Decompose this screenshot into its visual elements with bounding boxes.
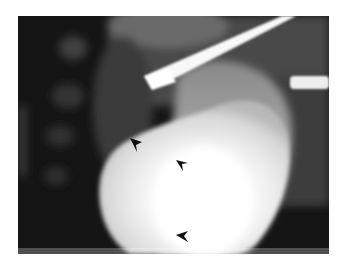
spine [18, 36, 87, 185]
instrument-horizontal [290, 76, 329, 89]
bottom-edge [18, 248, 329, 254]
radiograph-image [18, 16, 329, 254]
radiograph-canvas [18, 16, 329, 254]
